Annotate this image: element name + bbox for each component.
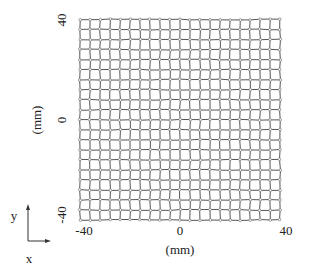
y-tick-0: 0 xyxy=(54,117,69,124)
grid-node-marker xyxy=(259,98,262,101)
grid-node-marker xyxy=(149,189,152,192)
grid-node-marker xyxy=(219,48,222,51)
grid-node-marker xyxy=(168,199,171,202)
grid-node-marker xyxy=(159,49,162,52)
grid-node-marker xyxy=(79,199,82,202)
grid-node-marker xyxy=(179,89,182,92)
grid-node-marker xyxy=(209,179,212,182)
grid-node-marker xyxy=(199,138,202,141)
grid-node-marker xyxy=(88,209,91,212)
grid-node-marker xyxy=(219,169,222,172)
grid-node-marker xyxy=(279,148,282,151)
grid-node-marker xyxy=(139,58,142,61)
grid-node-marker xyxy=(139,38,142,41)
grid-node-marker xyxy=(189,48,192,51)
grid-node-marker xyxy=(129,149,132,152)
grid-node-marker xyxy=(279,88,282,91)
grid-node-marker xyxy=(99,169,102,172)
grid-node-marker xyxy=(279,199,282,202)
grid-node-marker xyxy=(258,138,261,141)
grid-node-marker xyxy=(98,159,101,162)
grid-node-marker xyxy=(79,169,82,172)
grid-node-marker xyxy=(159,28,162,31)
grid-node-marker xyxy=(209,208,212,211)
grid-node-marker xyxy=(169,78,172,81)
y-tick-neg40: -40 xyxy=(54,206,69,223)
grid-node-marker xyxy=(129,59,132,62)
grid-node-marker xyxy=(99,99,102,102)
grid-node-marker xyxy=(259,169,262,172)
grid-node-marker xyxy=(129,78,132,81)
grid-node-marker xyxy=(228,98,231,101)
grid-node-marker xyxy=(188,189,191,192)
grid-node-marker xyxy=(78,138,81,141)
grid-node-marker xyxy=(119,79,122,82)
grid-node-marker xyxy=(228,59,231,62)
grid-node-marker xyxy=(249,149,252,152)
grid-node-marker xyxy=(189,69,192,72)
grid-node-marker xyxy=(199,39,202,42)
grid-node-marker xyxy=(139,209,142,212)
grid-node-marker xyxy=(248,99,251,102)
grid-node-marker xyxy=(249,39,252,42)
grid-node-marker xyxy=(199,89,202,92)
grid-node-marker xyxy=(179,98,182,101)
y-arrow-head-icon xyxy=(26,204,30,210)
grid-node-marker xyxy=(79,158,82,161)
grid-node-marker xyxy=(88,169,91,172)
grid-node-marker xyxy=(139,28,142,31)
grid-node-marker xyxy=(228,28,231,31)
grid-node-marker xyxy=(229,48,232,51)
grid-node-marker xyxy=(129,189,132,192)
grid-node-marker xyxy=(179,208,182,211)
grid-node-marker xyxy=(179,139,182,142)
grid-node-marker xyxy=(138,159,141,162)
grid-node-marker xyxy=(209,138,212,141)
grid-node-marker xyxy=(239,79,242,82)
grid-node-marker xyxy=(249,78,252,81)
grid-node-marker xyxy=(269,209,272,212)
grid-node-marker xyxy=(238,208,241,211)
grid-node-marker xyxy=(188,168,191,171)
grid-node-marker xyxy=(249,19,252,22)
x-tick-40: 40 xyxy=(280,223,293,238)
grid-node-marker xyxy=(269,18,272,21)
grid-node-marker xyxy=(79,149,82,152)
grid-node-marker xyxy=(129,68,132,71)
grid-node-marker xyxy=(119,128,122,131)
grid-node-marker xyxy=(209,109,212,112)
grid-node-marker xyxy=(139,139,142,142)
grid-node-marker xyxy=(249,169,252,172)
grid-node-marker xyxy=(149,148,152,151)
grid-node-marker xyxy=(159,78,162,81)
grid-node-marker xyxy=(89,219,92,222)
grid-node-marker xyxy=(278,218,281,221)
grid-node-marker xyxy=(169,29,172,32)
grid-node-marker xyxy=(119,169,122,172)
grid-node-marker xyxy=(219,89,222,92)
grid-node-marker xyxy=(198,129,201,132)
grid-node-marker xyxy=(238,118,241,121)
grid-node-marker xyxy=(189,28,192,31)
grid-node-marker xyxy=(278,108,281,111)
grid-node-marker xyxy=(119,99,122,102)
grid-node-marker xyxy=(249,58,252,61)
grid-node-marker xyxy=(199,58,202,61)
grid-node-marker xyxy=(178,128,181,131)
grid-node-marker xyxy=(218,138,221,141)
grid-node-marker xyxy=(278,29,281,32)
grid-node-marker xyxy=(149,58,152,61)
y-axis-unit: (mm) xyxy=(29,106,44,135)
grid-node-marker xyxy=(238,189,241,192)
grid-node-marker xyxy=(228,188,231,191)
grid-node-marker xyxy=(119,209,122,212)
grid-node-marker xyxy=(229,158,232,161)
grid-node-marker xyxy=(229,19,232,22)
grid-node-marker xyxy=(268,28,271,31)
grid-node-marker xyxy=(99,219,102,222)
grid-node-marker xyxy=(79,178,82,181)
grid-node-marker xyxy=(178,219,181,222)
grid-node-marker xyxy=(249,129,252,132)
grid-node-marker xyxy=(229,68,232,71)
grid-node-marker xyxy=(169,179,172,182)
